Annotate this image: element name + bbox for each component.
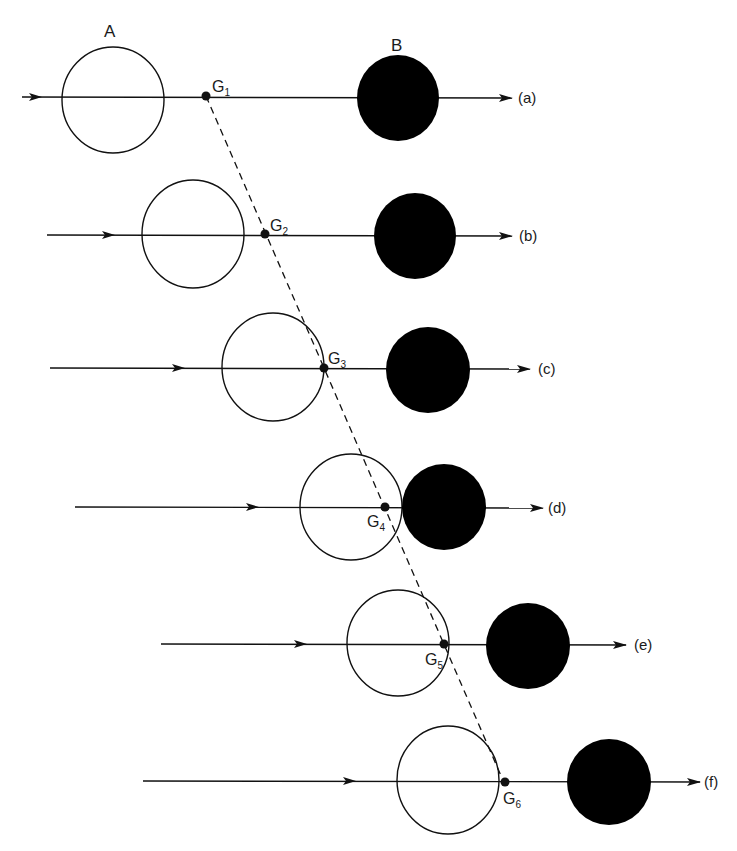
body-a-circle [222, 313, 324, 421]
stage-d: G4(d) [75, 454, 566, 560]
body-b-circle [386, 327, 470, 413]
stage-tag-label: (a) [518, 89, 536, 106]
body-a-label: A [104, 22, 116, 41]
stage-tag-label: (e) [634, 636, 652, 653]
body-b-label: B [391, 36, 402, 55]
dashed-trajectory-line [206, 96, 502, 778]
center-of-mass-dot [440, 640, 449, 649]
body-a-circle [142, 180, 244, 288]
body-b-circle [486, 603, 570, 689]
body-b-circle [374, 193, 456, 279]
center-of-mass-dot [261, 230, 270, 239]
center-of-mass-dot [501, 778, 510, 787]
center-of-mass-label: G1 [212, 78, 230, 98]
stage-f: G6(f) [143, 726, 718, 834]
center-of-mass-collision-diagram: G1(a)G2(b)G3(c)G4(d)G5(e)G6(f) A B [0, 0, 737, 851]
body-b-circle [567, 739, 651, 825]
body-a-circle [62, 47, 164, 153]
body-b-circle [402, 464, 486, 550]
center-of-mass-label: G2 [270, 217, 288, 237]
center-of-mass-label: G4 [367, 513, 385, 533]
center-of-mass-dot [202, 92, 211, 101]
stage-e: G5(e) [161, 590, 652, 696]
stage-b: G2(b) [47, 180, 537, 288]
body-b-circle [357, 55, 439, 141]
stage-tag-label: (f) [704, 773, 718, 790]
center-of-mass-label: G3 [328, 350, 346, 370]
stage-tag-label: (b) [519, 227, 537, 244]
body-a-circle [347, 590, 449, 696]
stage-tag-label: (d) [548, 499, 566, 516]
center-of-mass-label: G5 [425, 651, 443, 671]
center-of-mass-label: G6 [503, 790, 521, 810]
stage-c: G3(c) [50, 313, 556, 421]
center-of-mass-trajectory [206, 96, 502, 778]
collision-stages: G1(a)G2(b)G3(c)G4(d)G5(e)G6(f) [22, 47, 718, 834]
center-of-mass-dot [381, 503, 390, 512]
stage-tag-label: (c) [538, 360, 556, 377]
body-a-circle [397, 726, 499, 834]
stage-a: G1(a) [22, 47, 536, 153]
